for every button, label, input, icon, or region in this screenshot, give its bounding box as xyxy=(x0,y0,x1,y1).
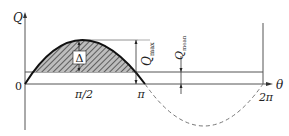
diagram-canvas: Δ Q max Q mean Q θ 0 π/2 π 2π xyxy=(0,0,289,136)
origin-label: 0 xyxy=(15,80,22,93)
x-axis-arrow-icon xyxy=(266,82,273,86)
delta-label: Δ xyxy=(76,52,84,65)
q-mean-dimension xyxy=(180,56,183,94)
x-axis xyxy=(25,82,273,86)
q-mean-label: Q mean xyxy=(173,35,187,60)
x-axis-label: θ xyxy=(276,78,284,92)
y-axis-label: Q xyxy=(13,11,23,25)
svg-text:mean: mean xyxy=(181,35,187,51)
tick-two-pi: 2π xyxy=(258,91,274,104)
negative-half-wave-dashed xyxy=(145,84,263,126)
y-axis-arrow-icon xyxy=(23,12,27,18)
q-max-label: Q max xyxy=(140,42,156,66)
tick-pi-half: π/2 xyxy=(74,88,93,101)
svg-text:Q: Q xyxy=(173,51,186,60)
tick-pi: π xyxy=(136,88,145,101)
y-axis xyxy=(23,12,27,130)
svg-text:Q: Q xyxy=(140,56,154,66)
svg-text:max: max xyxy=(148,42,156,56)
